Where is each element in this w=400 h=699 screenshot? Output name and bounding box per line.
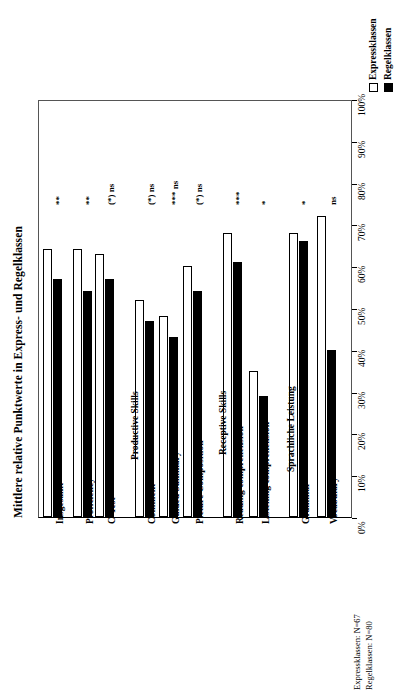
bar-expressklassen — [289, 233, 298, 517]
bar-expressklassen — [249, 371, 258, 517]
significance-marker: ** — [54, 196, 64, 205]
axis-tick-label: 20% — [357, 433, 367, 450]
axis-tick-label: 100% — [357, 94, 367, 116]
significance-marker: (*) ns — [106, 184, 116, 205]
axis-tick-label: 0% — [357, 521, 367, 534]
footnote-expressklassen: Expressklassen: N=67 — [352, 614, 362, 690]
category-label: Listening comprehension — [261, 422, 271, 524]
significance-marker: * — [300, 201, 310, 206]
category-label: Insgesamt — [55, 483, 65, 524]
axis-tick-label: 50% — [357, 308, 367, 325]
category-label: Vocabulary — [329, 477, 339, 524]
bar-expressklassen — [223, 233, 232, 517]
legend-item-regelklassen: Regelklassen — [383, 28, 393, 92]
bar-expressklassen — [317, 216, 326, 517]
legend-label-regelklassen: Regelklassen — [383, 28, 393, 80]
axis-tick — [352, 518, 357, 519]
significance-marker: (*) ns — [146, 184, 156, 205]
category-label: C-Test — [107, 497, 117, 524]
legend-swatch-filled-icon — [384, 83, 393, 92]
group-header: Sprachliche Leistung — [286, 386, 296, 472]
category-label: Guided Summary — [171, 451, 181, 524]
group-header: Productive Skills — [130, 391, 140, 460]
significance-marker: *** ns — [170, 181, 180, 205]
bar-expressklassen — [95, 254, 104, 517]
axis-tick-label: 70% — [357, 224, 367, 241]
axis-tick-label: 60% — [357, 266, 367, 283]
bar-expressklassen — [43, 249, 52, 517]
bar-pair — [317, 101, 336, 517]
legend-label-expressklassen: Expressklassen — [368, 18, 378, 80]
legend-item-expressklassen: Expressklassen — [368, 18, 378, 92]
group-header: Receptive Skills — [218, 391, 228, 455]
category-label: Comment — [147, 484, 157, 524]
bar-pair — [43, 101, 62, 517]
category-label: Picture Composition — [195, 441, 205, 524]
bar-regelklassen — [299, 241, 308, 517]
axis-tick-label: 40% — [357, 349, 367, 366]
axis-tick-label: 10% — [357, 475, 367, 492]
footnote-regelklassen: Regelklassen: N=80 — [364, 621, 374, 690]
category-label: Grammar — [301, 483, 311, 524]
bar-expressklassen — [73, 249, 82, 517]
y-axis-title: Mittlere relative Punktwerte in Express-… — [10, 100, 28, 520]
y-axis-title-text: Mittlere relative Punktwerte in Express-… — [12, 226, 24, 518]
bar-expressklassen — [159, 316, 168, 517]
legend-swatch-hollow-icon — [369, 83, 378, 92]
bar-regelklassen — [53, 279, 62, 517]
significance-marker: ns — [328, 196, 338, 205]
bar-pair — [95, 101, 114, 517]
significance-marker: *** — [234, 192, 244, 206]
significance-marker: * — [260, 201, 270, 206]
category-label: Reading comprehension — [235, 426, 245, 524]
chart-legend: Expressklassen Regelklassen — [352, 6, 398, 96]
significance-marker: ** — [84, 196, 94, 205]
category-label: Proficiency — [85, 478, 95, 524]
bar-pair — [73, 101, 92, 517]
bar-expressklassen — [183, 266, 192, 517]
axis-tick-label: 30% — [357, 391, 367, 408]
significance-marker: (*) ns — [194, 184, 204, 205]
bar-regelklassen — [105, 279, 114, 517]
axis-tick-label: 80% — [357, 182, 367, 199]
axis-tick-label: 90% — [357, 140, 367, 157]
